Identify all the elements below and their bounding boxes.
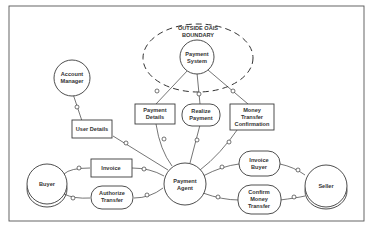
- svg-text:Invoice: Invoice: [101, 165, 120, 171]
- svg-text:Payment: Payment: [185, 51, 208, 57]
- svg-text:Authorize: Authorize: [99, 190, 125, 196]
- svg-text:Transfer: Transfer: [241, 114, 264, 120]
- svg-text:Invoice: Invoice: [249, 157, 268, 163]
- svg-text:Seller: Seller: [318, 183, 334, 189]
- svg-text:Payment: Payment: [189, 115, 212, 121]
- svg-text:Confirm: Confirm: [248, 189, 269, 195]
- actor-payment-system[interactable]: Payment System: [180, 40, 214, 74]
- message-realize-payment[interactable]: Realize Payment: [182, 104, 220, 126]
- svg-text:Realize: Realize: [191, 108, 210, 114]
- diagram-canvas: OUTSIDE OAIS BOUNDARY: [0, 0, 372, 228]
- svg-text:Payment: Payment: [173, 178, 196, 184]
- message-user-details[interactable]: User Details: [72, 120, 112, 138]
- svg-text:Confirmation: Confirmation: [235, 121, 270, 127]
- actor-payment-agent[interactable]: Payment Agent: [164, 163, 206, 205]
- svg-text:Money: Money: [250, 196, 269, 202]
- svg-text:Manager: Manager: [60, 78, 84, 84]
- svg-text:System: System: [187, 58, 207, 64]
- svg-text:Money: Money: [243, 107, 262, 113]
- message-authorize-transfer[interactable]: Authorize Transfer: [91, 186, 133, 209]
- svg-text:Account: Account: [61, 71, 84, 77]
- svg-text:Agent: Agent: [177, 185, 193, 191]
- svg-text:Buyer: Buyer: [251, 164, 268, 170]
- svg-text:User Details: User Details: [76, 126, 108, 132]
- message-invoice-buyer[interactable]: Invoice Buyer: [239, 151, 280, 176]
- message-confirm-money-transfer[interactable]: Confirm Money Transfer: [238, 185, 281, 214]
- svg-text:Buyer: Buyer: [39, 181, 56, 187]
- svg-text:Transfer: Transfer: [248, 203, 271, 209]
- message-money-transfer-confirmation[interactable]: Money Transfer Confirmation: [230, 104, 274, 130]
- boundary-label-line2: BOUNDARY: [182, 32, 214, 38]
- message-payment-details[interactable]: Payment Details: [135, 104, 175, 124]
- message-invoice[interactable]: Invoice: [91, 159, 132, 177]
- actor-account-manager[interactable]: Account Manager: [54, 60, 90, 96]
- svg-text:Payment: Payment: [143, 107, 166, 113]
- boundary-label-line1: OUTSIDE OAIS: [178, 25, 218, 31]
- svg-text:Details: Details: [146, 114, 164, 120]
- svg-text:Transfer: Transfer: [101, 197, 124, 203]
